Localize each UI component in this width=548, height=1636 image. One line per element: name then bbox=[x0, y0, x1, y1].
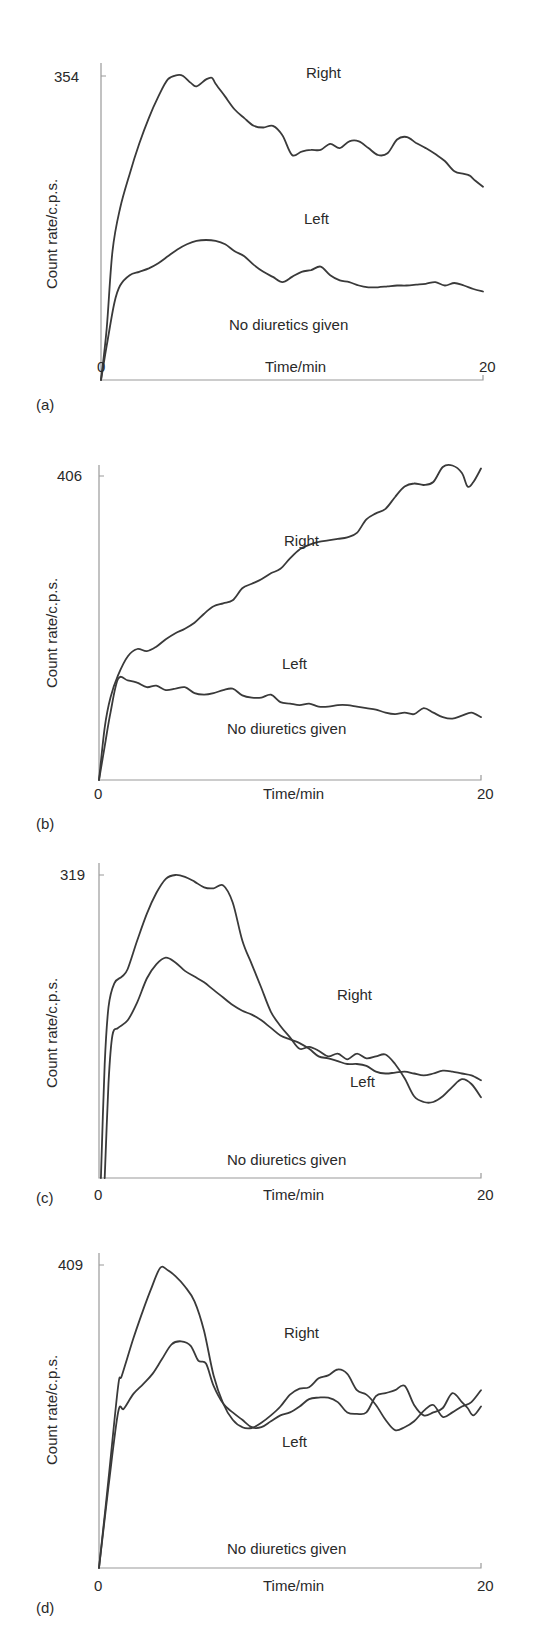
y-axis-label: Count rate/c.p.s. bbox=[43, 978, 60, 1088]
curve-right-kidney bbox=[101, 75, 483, 380]
annotation: No diuretics given bbox=[227, 1541, 346, 1556]
x-axis-label: Time/min bbox=[265, 359, 326, 374]
series-label-left: Left bbox=[304, 211, 329, 226]
curve-right-kidney bbox=[99, 1267, 481, 1568]
xtick-20: 20 bbox=[477, 786, 494, 801]
ytick-max: 319 bbox=[60, 867, 85, 882]
xtick-0: 0 bbox=[94, 786, 102, 801]
curve-left-kidney bbox=[99, 1341, 481, 1568]
xtick-0: 0 bbox=[97, 359, 105, 374]
series-label-left: Left bbox=[282, 1434, 307, 1449]
ytick-max: 409 bbox=[58, 1257, 83, 1272]
ytick-max: 406 bbox=[57, 468, 82, 483]
axes bbox=[99, 863, 481, 1178]
ytick-max: 354 bbox=[54, 69, 79, 84]
y-axis-label: Count rate/c.p.s. bbox=[43, 1355, 60, 1465]
panel-label: (a) bbox=[36, 397, 54, 412]
annotation: No diuretics given bbox=[229, 317, 348, 332]
xtick-20: 20 bbox=[479, 359, 496, 374]
renogram-plots bbox=[0, 0, 548, 1636]
series-label-right: Right bbox=[337, 987, 372, 1002]
series-label-right: Right bbox=[284, 1325, 319, 1340]
xtick-0: 0 bbox=[94, 1187, 102, 1202]
series-label-left: Left bbox=[282, 656, 307, 671]
x-axis-label: Time/min bbox=[263, 786, 324, 801]
annotation: No diuretics given bbox=[227, 1152, 346, 1167]
series-label-right: Right bbox=[284, 533, 319, 548]
curve-left-kidney bbox=[105, 958, 481, 1178]
panel-label: (b) bbox=[36, 816, 54, 831]
curve-right-kidney bbox=[101, 875, 481, 1178]
chart-c bbox=[99, 863, 481, 1178]
xtick-20: 20 bbox=[477, 1578, 494, 1593]
chart-d bbox=[99, 1253, 481, 1568]
annotation: No diuretics given bbox=[227, 721, 346, 736]
panel-label: (c) bbox=[36, 1190, 54, 1205]
series-label-right: Right bbox=[306, 65, 341, 80]
xtick-20: 20 bbox=[477, 1187, 494, 1202]
y-axis-label: Count rate/c.p.s. bbox=[43, 578, 60, 688]
x-axis-label: Time/min bbox=[263, 1187, 324, 1202]
xtick-0: 0 bbox=[94, 1578, 102, 1593]
y-axis-label: Count rate/c.p.s. bbox=[43, 179, 60, 289]
series-label-left: Left bbox=[350, 1074, 375, 1089]
panel-label: (d) bbox=[36, 1600, 54, 1615]
x-axis-label: Time/min bbox=[263, 1578, 324, 1593]
